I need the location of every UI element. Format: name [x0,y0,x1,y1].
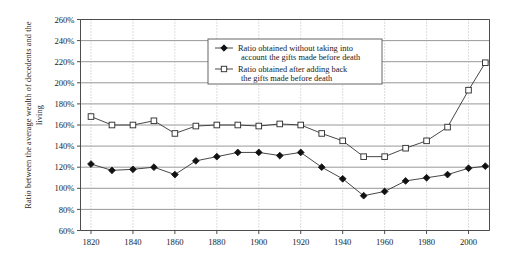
data-point-marker-square [319,131,325,137]
data-point-marker-diamond [402,178,409,185]
data-point-marker-diamond [423,174,430,181]
data-point-marker-diamond [381,188,388,195]
data-point-marker-diamond [213,153,220,160]
data-point-marker-diamond [88,161,95,168]
y-axis-ticks [77,20,81,231]
data-point-marker-square [340,138,346,144]
x-axis-tick-label: 1980 [418,237,435,247]
x-axis-tick-label: 1940 [334,237,351,247]
data-point-marker-square [193,123,199,129]
x-axis-tick-label: 1840 [124,237,141,247]
data-point-marker-diamond [109,167,116,174]
data-point-marker-square [277,121,283,127]
legend-label-line1-2: Ratio obtained after adding back [238,65,348,74]
series-line-1 [91,152,485,195]
y-axis-tick-label: 180% [54,99,74,109]
data-point-marker-square [298,122,304,128]
data-point-marker-square [445,124,451,130]
legend-marker-square [221,66,226,71]
x-axis-tick-label: 1920 [292,237,309,247]
data-point-marker-diamond [192,157,199,164]
x-axis-tick-label: 1880 [208,237,225,247]
y-axis-tick-label: 160% [54,120,74,130]
y-axis-tick-label: 200% [54,78,74,88]
data-point-marker-diamond [276,152,283,159]
data-point-marker-square [130,122,136,128]
data-point-marker-square [361,154,367,160]
chart-container: Ratio between the average wealth of dece… [0,0,510,260]
data-point-marker-diamond [297,149,304,156]
legend-label-line2-2: the gifts made before death [241,74,333,83]
data-point-marker-square [403,145,409,151]
data-point-marker-square [424,138,430,144]
data-point-marker-square [88,114,94,120]
data-point-marker-square [466,87,472,93]
data-point-marker-square [214,122,220,128]
x-axis-tick-labels: 1820184018601880190019201940196019802000 [82,237,477,247]
data-point-marker-diamond [151,164,158,171]
x-axis-tick-label: 1960 [376,237,393,247]
x-axis-tick-label: 1820 [82,237,99,247]
chart-legend: Ratio obtained without taking intoaccoun… [208,39,382,84]
data-point-marker-diamond [465,165,472,172]
y-axis-tick-label: 120% [54,162,74,172]
y-axis-tick-label: 260% [54,15,74,25]
x-axis-tick-label: 2000 [460,237,477,247]
data-point-marker-square [256,123,262,129]
x-axis-tick-label: 1860 [166,237,183,247]
y-axis-tick-label: 240% [54,36,74,46]
y-axis-tick-label: 80% [59,205,75,215]
y-axis-tick-label: 140% [54,141,74,151]
x-axis-tick-label: 1900 [250,237,267,247]
x-axis-ticks [91,231,469,235]
data-point-marker-diamond [255,149,262,156]
chart-plot-area: 260%240%220%200%180%160%140%120%100%80%6… [0,0,510,260]
data-point-marker-square [109,122,115,128]
data-point-marker-diamond [171,171,178,178]
data-point-marker-square [483,60,489,66]
y-axis-tick-label: 100% [54,183,74,193]
y-axis-tick-label: 220% [54,57,74,67]
data-point-marker-square [382,154,388,160]
legend-label-line1-1: Ratio obtained without taking into [238,44,353,53]
y-axis-tick-labels: 260%240%220%200%180%160%140%120%100%80%6… [54,15,74,236]
data-point-marker-diamond [444,171,451,178]
data-point-marker-diamond [318,164,325,171]
data-point-marker-diamond [234,149,241,156]
y-axis-tick-label: 60% [59,226,75,236]
data-point-marker-square [151,118,157,124]
data-point-marker-square [172,131,178,137]
data-point-marker-diamond [482,163,489,170]
legend-label-line2-1: account the gifts made before death [241,53,361,62]
data-point-marker-square [235,122,241,128]
